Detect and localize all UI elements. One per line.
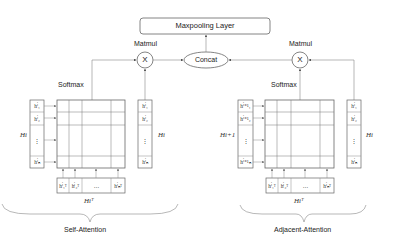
left-col-cell: hⁱ₁ (30, 100, 44, 112)
right-bottom-cell: hⁱₙᵀ (320, 178, 334, 193)
left-matmul-label: Matmul (134, 40, 157, 47)
right-bottom-cell: … (291, 178, 320, 193)
left-hi-right-label: Hi (158, 131, 165, 139)
right-left-col-cell: ⋮ (238, 125, 253, 156)
right-bottom-cell: hⁱ₁ᵀ (266, 178, 278, 193)
right-right-col-cell: hⁱ₂ (347, 112, 361, 125)
left-bottom-cell: hⁱ₂ᵀ (69, 178, 82, 193)
right-right-col-cell: hⁱₙ (347, 156, 361, 168)
attention-architecture-diagram: Maxpooling Layer Concat Matmul X Softmax… (0, 0, 393, 248)
right-left-col-cell: hⁱ⁺¹ₙ (238, 156, 253, 168)
maxpooling-layer-label: Maxpooling Layer (140, 21, 270, 30)
right-left-col-cell: hⁱ⁺¹₂ (238, 112, 253, 125)
right-softmax-label: Softmax (271, 81, 297, 88)
self-attention-label: Self-Attention (64, 226, 106, 233)
left-bottom-cell: hⁱ₁ᵀ (57, 178, 69, 193)
left-right-col-cell: ⋮ (138, 125, 152, 156)
right-multiply-icon: X (292, 55, 308, 64)
left-col-cell: hⁱ₂ (30, 112, 44, 125)
right-matmul-label: Matmul (289, 40, 312, 47)
left-col-cell: hⁱₙ (30, 156, 44, 168)
left-right-col-cell: hⁱ₁ (138, 100, 152, 112)
right-hi-label: Hi (366, 131, 373, 139)
right-left-col-cell: hⁱ⁺¹₁ (238, 100, 253, 112)
left-bottom-cell: … (82, 178, 111, 193)
left-right-col-cell: hⁱₙ (138, 156, 152, 168)
left-right-col-cell: hⁱ₂ (138, 112, 152, 125)
right-right-col-cell: ⋮ (347, 125, 361, 156)
left-hiT-label: Hiᵀ (84, 197, 94, 205)
right-bottom-cell: hⁱ₂ᵀ (278, 178, 291, 193)
left-bottom-cell: hⁱₙᵀ (111, 178, 125, 193)
concat-label: Concat (184, 56, 228, 63)
diagram-lines (0, 0, 393, 248)
left-multiply-icon: X (137, 55, 153, 64)
adjacent-attention-label: Adjacent-Attention (274, 226, 331, 233)
left-hi-label: Hi (20, 131, 27, 139)
left-softmax-label: Softmax (58, 81, 84, 88)
left-col-cell: ⋮ (30, 125, 44, 156)
right-hiT-label: Hiᵀ (294, 197, 304, 205)
right-hi1-label: Hi+1 (220, 131, 235, 139)
right-right-col-cell: hⁱ₁ (347, 100, 361, 112)
